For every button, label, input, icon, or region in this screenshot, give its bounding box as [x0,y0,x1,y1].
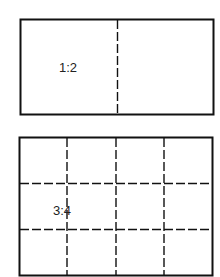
ratio-label-1-2: 1:2 [59,60,77,75]
aspect-ratio-diagrams: 1:2 3:4 [0,0,220,277]
ratio-label-3-4: 3:4 [53,203,71,218]
diagram-3-4: 3:4 [20,138,213,277]
diagram-1-2: 1:2 [21,20,214,115]
